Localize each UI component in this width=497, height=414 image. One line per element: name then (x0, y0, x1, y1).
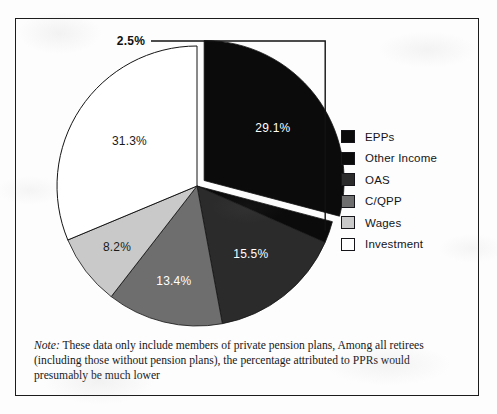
legend-swatch (341, 195, 355, 208)
note-text: These data only include members of priva… (34, 339, 424, 382)
pie-slice-label: 29.1% (255, 121, 290, 135)
callout-label: 2.5% (117, 34, 145, 48)
legend-item: Investment (341, 234, 471, 256)
legend-label: Wages (365, 217, 401, 229)
figure-note: Note: These data only include members of… (34, 338, 458, 384)
legend-item: OAS (341, 169, 471, 191)
chart-legend: EPPsOther IncomeOASC/QPPWagesInvestment (341, 126, 471, 255)
pie-slice-label: 8.2% (103, 240, 131, 254)
legend-label: Other Income (365, 152, 437, 164)
legend-item: Other Income (341, 148, 471, 170)
legend-swatch (341, 130, 355, 143)
legend-item: Wages (341, 212, 471, 234)
figure-page: 2.5% 29.1%15.5%13.4%8.2%31.3% EPPsOther … (0, 0, 497, 414)
legend-label: EPPs (365, 131, 395, 143)
legend-swatch (341, 216, 355, 229)
pie-slice-label: 15.5% (233, 247, 268, 261)
note-prefix: Note: (34, 339, 60, 352)
pie-slice-label: 13.4% (156, 274, 191, 288)
legend-swatch (341, 173, 355, 186)
legend-label: OAS (365, 174, 390, 186)
legend-swatch (341, 152, 355, 165)
legend-label: C/QPP (365, 195, 402, 207)
legend-item: EPPs (341, 126, 471, 148)
legend-item: C/QPP (341, 191, 471, 213)
pie-slice-label: 31.3% (112, 134, 147, 148)
legend-label: Investment (365, 238, 423, 250)
legend-swatch (341, 238, 355, 251)
pie-slices (57, 41, 344, 326)
